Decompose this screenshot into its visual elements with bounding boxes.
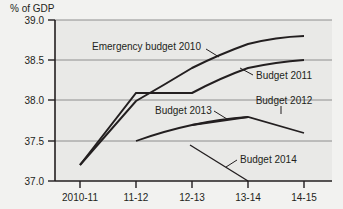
x-tick-label-13-14: 13-14 bbox=[235, 192, 261, 203]
x-tick-label-11-12: 11-12 bbox=[124, 192, 149, 203]
y-tick-label-37-0: 37.0 bbox=[25, 176, 45, 187]
y-tick-label-39-0: 39.0 bbox=[25, 15, 45, 26]
chart-container: % of GDP 39.0 38.5 38.0 37.5 37.0 2010-1… bbox=[0, 0, 343, 209]
y-axis-title: % of GDP bbox=[10, 3, 55, 14]
series-label-budget-2014: Budget 2014 bbox=[240, 154, 297, 165]
y-tick-label-37-5: 37.5 bbox=[25, 136, 45, 147]
x-tick-label-2010-11: 2010-11 bbox=[62, 192, 98, 203]
x-tick-label-14-15: 14-15 bbox=[291, 192, 317, 203]
series-label-budget-2011: Budget 2011 bbox=[256, 70, 312, 81]
x-tick-label-12-13: 12-13 bbox=[179, 192, 205, 203]
y-tick-label-38-0: 38.0 bbox=[25, 95, 45, 106]
series-label-emergency-budget-2010: Emergency budget 2010 bbox=[92, 41, 201, 52]
series-label-budget-2012: Budget 2012 bbox=[256, 95, 313, 106]
line-chart: % of GDP 39.0 38.5 38.0 37.5 37.0 2010-1… bbox=[0, 0, 343, 209]
y-tick-label-38-5: 38.5 bbox=[25, 55, 45, 66]
series-label-budget-2013: Budget 2013 bbox=[155, 105, 212, 116]
